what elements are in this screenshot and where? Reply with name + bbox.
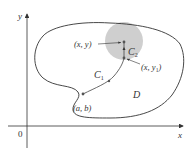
point-xy1	[123, 57, 126, 60]
region-d-label: D	[132, 89, 141, 100]
c1-label: C1	[94, 69, 104, 81]
point-start	[82, 93, 85, 96]
point-xy-label: (x, y)	[74, 39, 92, 49]
line-integral-path-independence-diagram: y 0 x D C1 C2 (a, b) (x, y) (x, y1)	[0, 0, 194, 154]
point-xy1-label: (x, y1)	[141, 62, 161, 73]
point-start-label: (a, b)	[73, 103, 92, 113]
origin-label: 0	[18, 129, 23, 139]
point-mid-c1	[108, 80, 110, 82]
x-axis-label: x	[177, 130, 182, 140]
leader-xy1	[127, 59, 140, 64]
y-axis-label: y	[17, 11, 22, 21]
point-xy	[123, 41, 126, 44]
